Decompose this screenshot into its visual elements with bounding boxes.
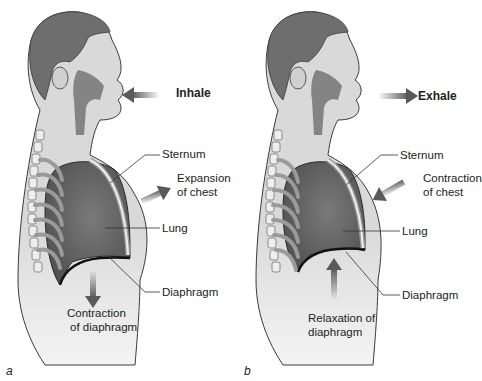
ear xyxy=(290,67,306,89)
ear xyxy=(52,67,68,89)
panel-letter: a xyxy=(6,364,13,378)
panel-exhalation: Exhale Sternum Contraction of chest Lung… xyxy=(238,0,475,381)
diaphragm-action-label-2: diaphragm xyxy=(308,326,362,339)
chest-action-label-1: Contraction xyxy=(423,172,482,185)
sternum-label: Sternum xyxy=(400,149,443,162)
chest-contraction-arrow xyxy=(369,175,408,207)
chest-expansion-arrow xyxy=(138,181,174,209)
panel-letter: b xyxy=(244,364,251,378)
diaphragm-action-label-1: Relaxation of xyxy=(308,312,375,325)
panel-inhalation: Inhale Sternum Expansion of chest Lung D… xyxy=(0,0,237,381)
lung-label: Lung xyxy=(162,222,188,235)
lung-label: Lung xyxy=(402,225,428,238)
exhale-label: Exhale xyxy=(418,90,457,103)
exhale-arrow xyxy=(378,88,418,104)
diaphragm-action-label-2: of diaphragm xyxy=(70,321,137,334)
chest-action-label-2: of chest xyxy=(423,186,463,199)
sternum-label: Sternum xyxy=(162,148,205,161)
diaphragm-action-label-1: Contraction xyxy=(67,307,126,320)
inhale-arrow xyxy=(122,87,160,103)
diaphragm-label: Diaphragm xyxy=(162,286,218,299)
inhale-label: Inhale xyxy=(176,87,211,100)
chest-action-label-1: Expansion xyxy=(177,172,231,185)
diaphragm-label: Diaphragm xyxy=(402,289,458,302)
chest-action-label-2: of chest xyxy=(177,186,217,199)
